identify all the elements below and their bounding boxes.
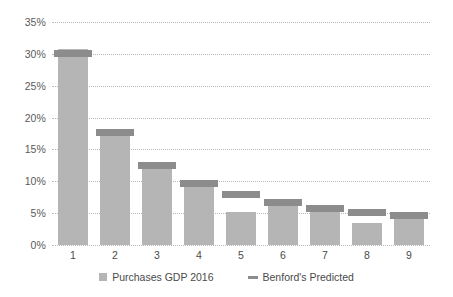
x-axis-tick-label: 6 (268, 249, 298, 261)
benford-predicted-marker (390, 212, 428, 219)
bar (100, 135, 130, 245)
legend-item-benfords-predicted[interactable]: Benford's Predicted (248, 271, 354, 283)
benford-predicted-marker (306, 205, 344, 212)
bar (268, 205, 298, 245)
benford-predicted-marker (96, 129, 134, 136)
x-axis-tick-label: 3 (142, 249, 172, 261)
legend-square-swatch-icon (99, 273, 107, 281)
chart-legend: Purchases GDP 2016 Benford's Predicted (0, 271, 453, 283)
benford-predicted-marker (348, 209, 386, 216)
x-axis-tick-label: 9 (394, 249, 424, 261)
benford-predicted-marker (180, 180, 218, 187)
bar (310, 211, 340, 245)
bar (352, 223, 382, 245)
bar (184, 186, 214, 245)
legend-dash-swatch-icon (248, 276, 258, 279)
x-axis-tick-label: 5 (226, 249, 256, 261)
legend-label-benfords-predicted: Benford's Predicted (263, 271, 354, 283)
x-axis-tick-label: 7 (310, 249, 340, 261)
bar (226, 212, 256, 245)
benford-predicted-marker (264, 199, 302, 206)
benford-predicted-marker (222, 191, 260, 198)
x-axis-tick-label: 2 (100, 249, 130, 261)
bar (394, 215, 424, 245)
x-axis-tick-label: 1 (58, 249, 88, 261)
legend-label-purchases-gdp-2016: Purchases GDP 2016 (112, 271, 213, 283)
bar (142, 169, 172, 245)
bar (58, 49, 88, 245)
benford-predicted-marker (138, 162, 176, 169)
x-axis-tick-label: 4 (184, 249, 214, 261)
data-series-layer: 123456789 (0, 0, 453, 297)
benford-comparison-chart: 0%5%10%15%20%25%30%35% 123456789 Purchas… (0, 0, 453, 297)
benford-predicted-marker (54, 50, 92, 57)
legend-item-purchases-gdp-2016[interactable]: Purchases GDP 2016 (99, 271, 213, 283)
x-axis-tick-label: 8 (352, 249, 382, 261)
